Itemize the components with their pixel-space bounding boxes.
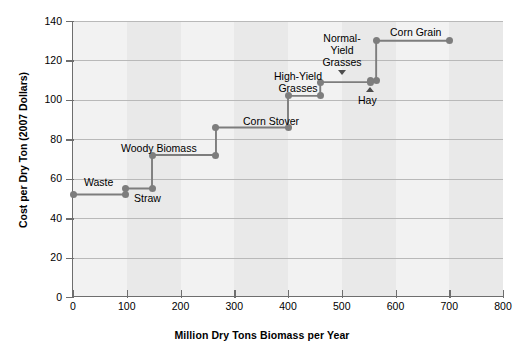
x-axis-title: Million Dry Tons Biomass per Year	[0, 329, 524, 341]
label-woody-biomass: Woody Biomass	[121, 142, 197, 154]
y-tick-label: 100	[22, 94, 62, 105]
x-tick	[396, 290, 397, 298]
label-normal-yield-grasses: Normal- Yield Grasses	[311, 32, 373, 68]
label-normal-yield-line1: Normal-	[311, 32, 373, 44]
x-tick-label: 800	[483, 301, 523, 312]
gridline	[73, 100, 503, 101]
label-normal-yield-line3: Grasses	[311, 56, 373, 68]
x-tick	[288, 290, 289, 298]
label-hay: Hay	[358, 94, 377, 106]
x-tick-label: 400	[268, 301, 308, 312]
gridline	[73, 218, 503, 219]
label-waste: Waste	[84, 176, 113, 188]
y-tick	[66, 139, 74, 140]
x-tick-label: 200	[161, 301, 201, 312]
x-tick	[342, 290, 343, 298]
plot-band	[234, 21, 288, 297]
label-high-yield-line1: High-Yield	[261, 70, 335, 82]
plot-area	[73, 21, 503, 297]
plot-band	[181, 21, 235, 297]
x-tick-label: 500	[322, 301, 362, 312]
label-high-yield-grasses: High-Yield Grasses	[261, 70, 335, 94]
y-tick	[66, 100, 74, 101]
x-tick-label: 300	[214, 301, 254, 312]
x-tick-label: 100	[107, 301, 147, 312]
y-tick-label: 80	[22, 134, 62, 145]
x-tick	[73, 290, 74, 298]
label-corn-grain: Corn Grain	[390, 26, 441, 38]
plot-band	[73, 21, 127, 297]
hay-pointer-icon	[366, 87, 374, 92]
x-tick	[503, 290, 504, 298]
y-tick-label: 120	[22, 55, 62, 66]
y-tick	[66, 21, 74, 22]
gridline	[73, 179, 503, 180]
label-straw: Straw	[134, 192, 161, 204]
plot-band	[449, 21, 503, 297]
gridline	[73, 60, 503, 61]
x-tick	[449, 290, 450, 298]
gridline	[73, 21, 503, 22]
normal-yield-pointer-icon	[338, 70, 346, 75]
x-tick	[181, 290, 182, 298]
label-normal-yield-line2: Yield	[311, 44, 373, 56]
y-tick-label: 20	[22, 252, 62, 263]
y-tick	[66, 60, 74, 61]
x-tick-label: 0	[53, 301, 93, 312]
plot-band	[396, 21, 450, 297]
label-high-yield-line2: Grasses	[261, 82, 335, 94]
chart-figure: Million Dry Tons Biomass per Year Cost p…	[0, 0, 524, 360]
x-tick-label: 700	[429, 301, 469, 312]
gridline	[73, 139, 503, 140]
y-tick-label: 40	[22, 213, 62, 224]
y-tick	[66, 258, 74, 259]
gridline	[73, 258, 503, 259]
y-tick-label: 140	[22, 16, 62, 27]
plot-band	[127, 21, 181, 297]
x-tick	[127, 290, 128, 298]
label-corn-stover: Corn Stover	[243, 115, 299, 127]
y-tick-label: 60	[22, 173, 62, 184]
x-tick-label: 600	[376, 301, 416, 312]
x-tick	[234, 290, 235, 298]
y-axis-line	[72, 21, 73, 298]
y-tick	[66, 179, 74, 180]
y-tick	[66, 218, 74, 219]
